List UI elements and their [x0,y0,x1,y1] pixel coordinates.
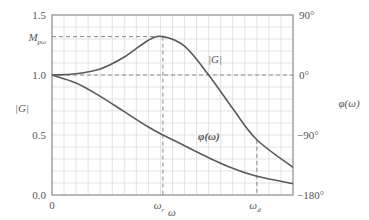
x-tick-omega-r: ωr [154,199,165,214]
y-tick-0.5: 0.5 [32,129,46,141]
y-tick-1.0: 1.0 [32,69,46,81]
x-tick-origin: 0 [49,199,55,211]
y-tick-0.0: 0.0 [32,189,46,201]
phase-tick-90: 90° [299,9,314,21]
phase-curve-label: φ(ω) [198,130,220,143]
x-tick-omega-d: ωd [249,199,261,214]
y-tick-mp: Mpω [27,31,46,46]
left-axis-label: |G| [15,102,29,114]
y-tick-1.5: 1.5 [32,9,46,21]
bode-chart: 1.5 Mpω 1.0 0.5 0.0 |G| 90° 0° −90° −180… [0,0,369,220]
phase-tick-0: 0° [299,69,309,81]
phase-tick-minus90: −90° [297,129,319,141]
x-axis-label: ω [168,206,176,218]
right-axis-label: φ(ω) [338,97,360,110]
phase-tick-minus180: −180° [297,189,324,201]
magnitude-curve-label: |G| [208,53,222,65]
